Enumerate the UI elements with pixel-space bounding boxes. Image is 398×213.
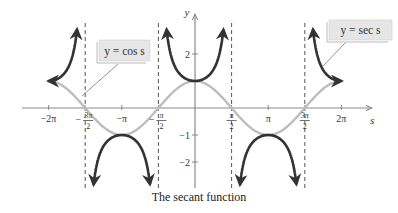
callout-labels: y = cos sy = sec s	[82, 20, 392, 96]
svg-text:3π: 3π	[83, 111, 93, 120]
secant-chart: −2π−3π2−π−π2π2π3π22π2−1−2sy y = cos sy =…	[0, 0, 398, 213]
callout-text: y = sec s	[340, 24, 381, 37]
svg-text:2: 2	[159, 122, 163, 131]
sec-curve-branch	[240, 135, 296, 185]
svg-text:π: π	[159, 111, 164, 120]
tick-label-fraction: −π2	[149, 111, 167, 131]
tick-label: −1	[179, 130, 190, 141]
tick-label-fraction: −3π2	[76, 111, 94, 131]
sec-label: y = sec s	[323, 20, 392, 66]
sec-curve-branch	[49, 29, 77, 81]
callout-leader	[323, 43, 345, 66]
svg-text:2: 2	[303, 122, 307, 131]
figure-caption: The secant function	[0, 190, 398, 205]
tick-label: 2	[185, 49, 190, 60]
svg-text:2: 2	[86, 122, 90, 131]
tick-label: −π	[116, 113, 127, 124]
svg-text:3π: 3π	[300, 111, 310, 120]
tick-label: π	[266, 113, 271, 124]
x-axis-label: s	[370, 114, 374, 126]
svg-text:−: −	[76, 114, 82, 125]
callout-leader	[82, 64, 118, 96]
cos-label: y = cos s	[82, 40, 150, 96]
y-axis-label: y	[184, 6, 190, 18]
tick-label: 2π	[336, 113, 346, 124]
sec-curve-branch	[94, 135, 150, 185]
callout-text: y = cos s	[104, 45, 145, 58]
tick-label: −2π	[41, 113, 57, 124]
tick-label: −2	[179, 157, 190, 168]
svg-text:−: −	[149, 114, 155, 125]
svg-text:2: 2	[230, 122, 234, 131]
